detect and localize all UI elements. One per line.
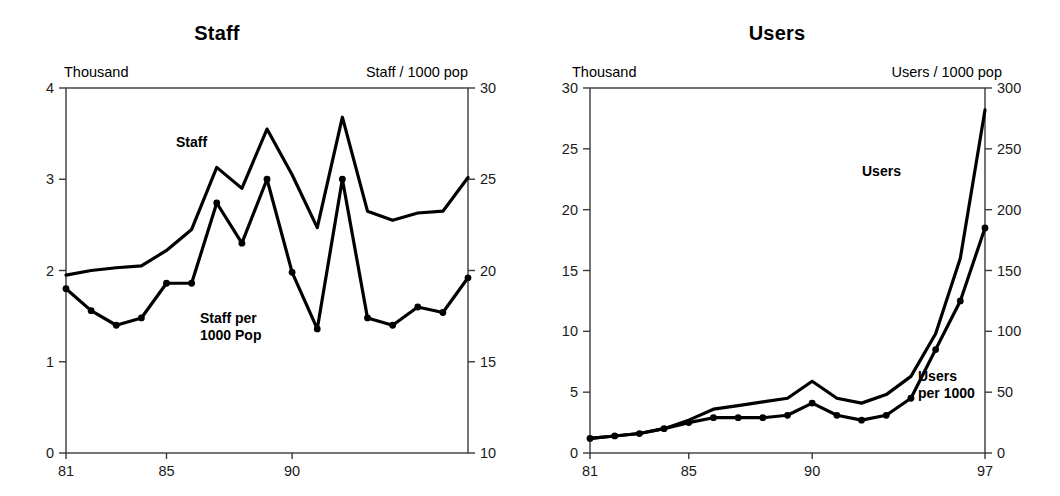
series-marker (685, 419, 692, 426)
y-axis-tick-label-left: 10 (562, 323, 578, 339)
series-marker (710, 414, 717, 421)
series-marker (957, 298, 964, 305)
y-axis-tick-label-left: 0 (570, 445, 578, 461)
series-marker (414, 304, 421, 311)
y-axis-tick-label-left: 20 (562, 202, 578, 218)
plot-area-users: 05101520253005010015020025030081859097 (530, 0, 1060, 496)
series-marker (908, 395, 915, 402)
series-marker (982, 225, 989, 232)
series-marker (809, 400, 816, 407)
y-axis-tick-label-right: 10 (480, 445, 496, 461)
x-axis-tick-label: 81 (582, 463, 598, 479)
y-axis-tick-label-right: 150 (997, 263, 1021, 279)
x-axis-tick-label: 85 (681, 463, 697, 479)
series-marker (439, 309, 446, 316)
y-axis-tick-label-left: 25 (562, 141, 578, 157)
series-marker (883, 412, 890, 419)
series-marker (833, 412, 840, 419)
chart-panel-staff: Staff Thousand Staff / 1000 pop Staff St… (0, 0, 530, 496)
y-axis-tick-label-right: 200 (997, 202, 1021, 218)
x-axis-tick-label: 90 (804, 463, 820, 479)
y-axis-tick-label-right: 25 (480, 171, 496, 187)
series-marker (188, 280, 195, 287)
y-axis-tick-label-left: 0 (46, 445, 54, 461)
y-axis-tick-label-left: 5 (570, 384, 578, 400)
x-axis-tick-label: 81 (58, 463, 74, 479)
y-axis-tick-label-right: 250 (997, 141, 1021, 157)
plot-frame (66, 88, 468, 453)
series-marker (759, 414, 766, 421)
series-marker (389, 322, 396, 329)
series-marker (289, 269, 296, 276)
y-axis-tick-label-left: 2 (46, 263, 54, 279)
y-axis-tick-label-left: 1 (46, 354, 54, 370)
series-marker (932, 346, 939, 353)
series-line-1 (66, 117, 468, 275)
x-axis-tick-label: 90 (284, 463, 300, 479)
plot-area-staff: 012341015202530818590 (0, 0, 530, 496)
series-line-2 (66, 179, 468, 329)
x-axis-tick-label: 97 (977, 463, 993, 479)
y-axis-tick-label-right: 50 (997, 384, 1013, 400)
y-axis-tick-label-right: 300 (997, 80, 1021, 96)
y-axis-tick-label-left: 4 (46, 80, 54, 96)
series-line-2 (590, 228, 985, 438)
series-marker (858, 417, 865, 424)
chart-panel-users: Users Thousand Users / 1000 pop Users Us… (530, 0, 1060, 496)
y-axis-tick-label-right: 15 (480, 354, 496, 370)
y-axis-tick-label-right: 0 (997, 445, 1005, 461)
y-axis-tick-label-left: 3 (46, 171, 54, 187)
series-marker (735, 414, 742, 421)
series-marker (264, 176, 271, 183)
x-axis-tick-label: 85 (158, 463, 174, 479)
series-marker (88, 307, 95, 314)
y-axis-tick-label-right: 20 (480, 263, 496, 279)
y-axis-tick-label-right: 100 (997, 323, 1021, 339)
series-marker (339, 176, 346, 183)
series-line-1 (590, 110, 985, 439)
series-marker (611, 433, 618, 440)
series-marker (636, 430, 643, 437)
y-axis-tick-label-left: 30 (562, 80, 578, 96)
series-marker (238, 240, 245, 247)
series-marker (213, 200, 220, 207)
series-marker (661, 425, 668, 432)
y-axis-tick-label-left: 15 (562, 263, 578, 279)
series-marker (587, 435, 594, 442)
y-axis-tick-label-right: 30 (480, 80, 496, 96)
series-marker (465, 274, 472, 281)
figure-canvas: Staff Thousand Staff / 1000 pop Staff St… (0, 0, 1060, 496)
series-marker (163, 280, 170, 287)
series-marker (113, 322, 120, 329)
series-marker (314, 326, 321, 333)
series-marker (784, 412, 791, 419)
series-marker (63, 285, 70, 292)
series-marker (364, 315, 371, 322)
series-marker (138, 315, 145, 322)
